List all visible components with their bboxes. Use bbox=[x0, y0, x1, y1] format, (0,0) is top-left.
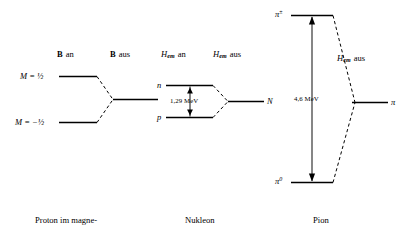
nukleon-neutron-label: n bbox=[157, 81, 161, 90]
nukleon-gap-arrow-head-up bbox=[187, 88, 193, 94]
proton-lower-state-label: M = −½ bbox=[15, 118, 44, 127]
proton-header-field-on-symbol: B bbox=[57, 49, 63, 59]
nukleon-header-hem-off-subscript: em bbox=[219, 53, 227, 59]
proton-header-field-off-symbol: B bbox=[110, 49, 116, 59]
nukleon-header-hem-on-word: an bbox=[178, 49, 186, 59]
pion-header-hem-off-subscript: em bbox=[343, 57, 351, 63]
proton-caption-line-1: Proton im magne- bbox=[35, 215, 97, 226]
proton-header-field-on: Ban bbox=[57, 50, 74, 59]
proton-panel-lines bbox=[59, 77, 158, 123]
pion-charged-state-superscript: ± bbox=[279, 9, 282, 15]
nukleon-p-connector bbox=[213, 102, 228, 118]
proton-upper-state-label: M = ½ bbox=[20, 72, 43, 81]
pion-gap-arrow-head-down bbox=[309, 174, 315, 182]
pion-merged-label: π bbox=[391, 98, 395, 107]
nukleon-n-connector bbox=[213, 86, 228, 102]
nukleon-header-hem-off-word: aus bbox=[230, 49, 241, 59]
proton-lower-connector bbox=[97, 100, 113, 123]
pion-gap-arrow-head-up bbox=[309, 17, 315, 25]
proton-header-field-off: Baus bbox=[110, 50, 130, 59]
pion-header-hem-off-word: aus bbox=[354, 53, 365, 63]
proton-panel-caption: Proton im magne- tischen Feld bbox=[35, 192, 97, 236]
pion-panel-caption: Pion bbox=[313, 192, 329, 236]
nukleon-panel-caption: Nukleon bbox=[185, 192, 215, 236]
nukleon-header-hem-on: Heman bbox=[161, 50, 186, 59]
nukleon-merged-label: N bbox=[267, 97, 273, 106]
proton-header-field-off-word: aus bbox=[119, 49, 130, 59]
nukleon-header-hem-off: Hemaus bbox=[213, 50, 241, 59]
nukleon-proton-label: p bbox=[157, 113, 161, 122]
nukleon-caption-line-1: Nukleon bbox=[185, 215, 215, 226]
pion-neutral-state-superscript: 0 bbox=[279, 176, 282, 182]
pion-neutral-state-label: π0 bbox=[275, 176, 282, 185]
pion-neutral-connector bbox=[333, 103, 355, 183]
pion-header-hem-off: Hemaus bbox=[337, 54, 365, 63]
proton-header-field-on-word: an bbox=[66, 49, 74, 59]
nukleon-gap-energy-label: 1,29 MeV bbox=[170, 98, 198, 105]
pion-caption-line-1: Pion bbox=[313, 215, 329, 226]
nukleon-header-hem-on-subscript: em bbox=[167, 53, 175, 59]
proton-upper-connector bbox=[97, 77, 113, 100]
pion-charged-state-label: π± bbox=[275, 9, 283, 18]
energy-level-diagram-figure: Ban Baus M = ½ M = −½ Proton im magne- t… bbox=[0, 0, 406, 236]
nukleon-gap-arrow-head-down bbox=[187, 109, 193, 115]
pion-gap-energy-label: 4,6 MeV bbox=[294, 96, 319, 103]
